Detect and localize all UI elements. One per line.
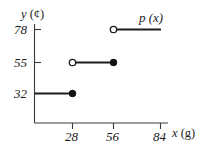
- closed-endpoint-28-32: [69, 90, 76, 97]
- open-endpoint-56-78: [110, 26, 116, 32]
- y-tick-label-55: 55: [14, 56, 27, 69]
- step-function-figure: y (¢) 78 55 32 28 56 84 x (g) p (x): [0, 0, 203, 152]
- x-axis-title: x (g): [172, 127, 195, 140]
- open-endpoint-28-55: [69, 59, 75, 65]
- x-axis-title-unit: (g): [178, 126, 196, 140]
- curve-label-p-of-x: p (x): [139, 11, 163, 24]
- closed-endpoint-56-55: [110, 59, 117, 66]
- x-tick-label-28: 28: [65, 130, 78, 143]
- y-tick-label-78: 78: [14, 23, 27, 36]
- x-tick-label-84: 84: [153, 130, 166, 143]
- y-tick-label-32: 32: [14, 87, 27, 100]
- y-axis-title: y (¢): [21, 8, 44, 21]
- y-axis-title-unit: (¢): [27, 7, 45, 21]
- x-tick-label-56: 56: [106, 130, 119, 143]
